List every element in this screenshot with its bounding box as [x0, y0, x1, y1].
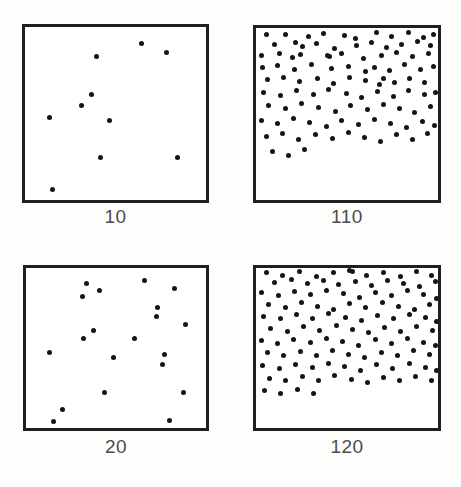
- data-point: [381, 270, 386, 275]
- data-point: [81, 336, 86, 341]
- data-point: [314, 353, 319, 358]
- data-point: [97, 288, 102, 293]
- data-point: [374, 362, 379, 367]
- data-point: [347, 75, 352, 80]
- data-point: [91, 328, 96, 333]
- panel-frame: [253, 25, 441, 203]
- data-point: [314, 274, 319, 279]
- data-point: [375, 313, 380, 318]
- data-point: [277, 51, 282, 56]
- data-point: [321, 31, 326, 36]
- data-point: [295, 387, 300, 392]
- data-point: [278, 316, 283, 321]
- data-point: [333, 109, 338, 114]
- data-point: [297, 269, 302, 274]
- data-point: [358, 368, 363, 373]
- data-point: [347, 268, 352, 273]
- data-point: [362, 135, 367, 140]
- data-point: [357, 295, 362, 300]
- data-point: [329, 66, 334, 71]
- panel-frame: [253, 265, 441, 431]
- dot-density-figure: 1011020120: [0, 0, 461, 487]
- data-point: [172, 286, 177, 291]
- data-point: [432, 123, 437, 128]
- data-point: [414, 269, 419, 274]
- data-point: [374, 30, 379, 35]
- data-point: [264, 134, 269, 139]
- data-point: [377, 82, 382, 87]
- data-point: [270, 149, 275, 154]
- data-point: [259, 53, 264, 58]
- data-point: [425, 131, 430, 136]
- data-point: [321, 278, 326, 283]
- data-point: [326, 87, 331, 92]
- panel-label: 110: [253, 206, 441, 228]
- data-point: [47, 115, 52, 120]
- data-point: [107, 118, 112, 123]
- data-point: [340, 339, 345, 344]
- data-point: [372, 117, 377, 122]
- data-point: [298, 52, 303, 57]
- data-point: [387, 68, 392, 73]
- scatter-panel-120: [253, 265, 441, 431]
- data-point: [267, 376, 272, 381]
- data-point: [339, 118, 344, 123]
- data-point: [280, 273, 285, 278]
- data-point: [398, 329, 403, 334]
- data-point: [363, 69, 368, 74]
- data-point: [434, 296, 439, 301]
- data-point: [389, 34, 394, 39]
- data-point: [315, 304, 320, 309]
- data-point: [160, 362, 165, 367]
- data-point: [392, 80, 397, 85]
- data-point: [309, 62, 314, 67]
- data-point: [89, 92, 94, 97]
- data-point: [272, 280, 277, 285]
- data-point: [291, 337, 296, 342]
- data-point: [294, 312, 299, 317]
- data-point: [260, 363, 265, 368]
- data-point: [375, 89, 380, 94]
- data-point: [347, 301, 352, 306]
- data-point: [431, 32, 436, 37]
- data-point: [266, 103, 271, 108]
- data-point: [344, 91, 349, 96]
- data-point: [259, 338, 264, 343]
- data-point: [292, 289, 297, 294]
- data-point: [350, 269, 355, 274]
- data-point: [381, 102, 386, 107]
- data-point: [275, 63, 280, 68]
- data-point: [342, 364, 347, 369]
- data-point: [275, 121, 280, 126]
- data-point: [407, 76, 412, 81]
- data-point: [283, 305, 288, 310]
- data-point: [297, 79, 302, 84]
- data-point: [293, 362, 298, 367]
- data-point: [407, 312, 412, 317]
- data-point: [261, 314, 266, 319]
- data-point: [324, 336, 329, 341]
- data-point: [294, 88, 299, 93]
- data-point: [330, 136, 335, 141]
- data-point: [379, 53, 384, 58]
- data-point: [381, 375, 386, 380]
- data-point: [280, 131, 285, 136]
- data-point: [348, 103, 353, 108]
- data-point: [331, 307, 336, 312]
- data-point: [332, 46, 337, 51]
- data-point: [385, 278, 390, 283]
- data-point: [299, 101, 304, 106]
- data-point: [350, 327, 355, 332]
- data-point: [364, 273, 369, 278]
- data-point: [183, 322, 188, 327]
- panel-label: 120: [253, 436, 441, 458]
- data-point: [433, 279, 438, 284]
- data-point: [411, 348, 416, 353]
- data-point: [315, 76, 320, 81]
- data-point: [401, 281, 406, 286]
- data-point: [372, 65, 377, 70]
- data-point: [266, 302, 271, 307]
- data-point: [132, 336, 137, 341]
- data-point: [346, 64, 351, 69]
- data-point: [391, 316, 396, 321]
